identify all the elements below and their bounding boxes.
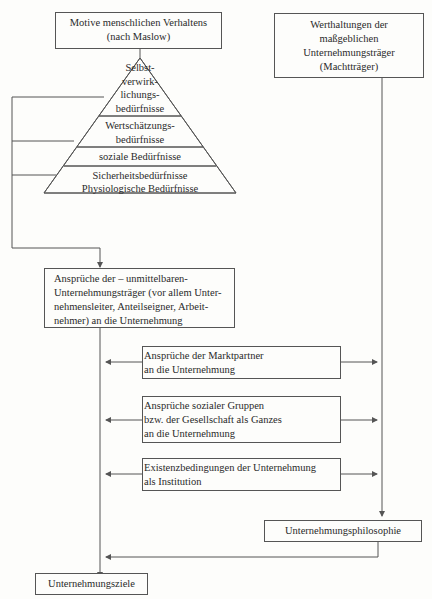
- philosophie-box: Unternehmungsphilosophie: [264, 520, 422, 542]
- werthaltungen-box: Werthaltungen der maßgeblichen Unternehm…: [274, 13, 424, 78]
- motive-line2: (nach Maslow): [56, 30, 221, 44]
- ziele-label: Unternehmungsziele: [48, 578, 135, 589]
- pyramid-text: lichungs-: [110, 88, 170, 102]
- werthaltungen-line4: (Machtträger): [275, 60, 423, 74]
- pyramid-text: Wertschätzungs-: [90, 119, 190, 133]
- existenz-line2: als Institution: [144, 475, 340, 489]
- pyramid-level-esteem: Wertschätzungs- bedürfnisse: [90, 119, 190, 146]
- ansprueche-traeger-box: Ansprüche der – unmittelbaren- Unternehm…: [44, 268, 235, 328]
- existenz-line1: Existenzbedingungen der Unternehmung: [144, 461, 340, 475]
- soziale-line3: an die Unternehmung: [144, 427, 340, 441]
- motive-box: Motive menschlichen Verhaltens (nach Mas…: [55, 12, 222, 49]
- philosophie-label: Unternehmungsphilosophie: [285, 525, 401, 536]
- ziele-box: Unternehmungsziele: [35, 573, 148, 595]
- soziale-gruppen-box: Ansprüche sozialer Gruppen bzw. der Gese…: [142, 396, 341, 443]
- pyramid-text: Selbst-: [110, 61, 170, 75]
- marktpartner-box: Ansprüche der Marktpartner an die Untern…: [142, 346, 341, 379]
- soziale-line1: Ansprüche sozialer Gruppen: [144, 399, 340, 413]
- pyramid-level-self-actualization: Selbst- verwirk- lichungs- bedürfnisse: [110, 61, 170, 115]
- pyramid-text: soziale Bedürfnisse: [75, 150, 205, 164]
- pyramid-text: bedürfnisse: [110, 102, 170, 116]
- pyramid-level-safety: Sicherheitsbedürfnisse: [65, 169, 215, 183]
- werthaltungen-line2: maßgeblichen: [275, 32, 423, 46]
- pyramid-text: Sicherheitsbedürfnisse: [65, 169, 215, 183]
- traeger-line1: Ansprüche der – unmittelbaren-: [54, 272, 234, 286]
- traeger-line3: nehmensleiter, Anteilseigner, Arbeit-: [54, 300, 234, 314]
- pyramid-level-social: soziale Bedürfnisse: [75, 150, 205, 164]
- marktpartner-line1: Ansprüche der Marktpartner: [144, 349, 340, 363]
- soziale-line2: bzw. der Gesellschaft als Ganzes: [144, 413, 340, 427]
- marktpartner-line2: an die Unternehmung: [144, 363, 340, 377]
- pyramid-text: bedürfnisse: [90, 133, 190, 147]
- traeger-line4: nehmer) an die Unternehmung: [54, 314, 234, 328]
- werthaltungen-line3: Unternehmungsträger: [275, 46, 423, 60]
- pyramid-text: Physiologische Bedürfnisse: [50, 182, 230, 196]
- traeger-line2: Unternehmungsträger (vor allem Unter-: [54, 286, 234, 300]
- pyramid-level-physiological: Physiologische Bedürfnisse: [50, 182, 230, 196]
- existenz-box: Existenzbedingungen der Unternehmung als…: [142, 458, 341, 491]
- motive-line1: Motive menschlichen Verhaltens: [56, 16, 221, 30]
- werthaltungen-line1: Werthaltungen der: [275, 18, 423, 32]
- pyramid-text: verwirk-: [110, 75, 170, 89]
